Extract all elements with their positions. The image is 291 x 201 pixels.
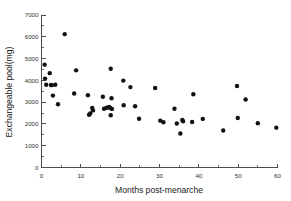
data-point — [101, 95, 105, 99]
data-point — [74, 68, 78, 72]
data-point — [221, 128, 225, 132]
x-tick-label: 20 — [117, 172, 124, 179]
data-point — [243, 97, 247, 101]
ticks-group — [42, 15, 278, 168]
data-point — [201, 117, 205, 121]
data-point — [153, 86, 157, 90]
data-point — [122, 103, 126, 107]
data-point — [43, 76, 47, 80]
data-point — [63, 32, 67, 36]
data-point — [42, 62, 46, 66]
x-axis-title: Months post-menarche — [115, 185, 203, 195]
data-point — [190, 120, 194, 124]
y-tick-label: 5000 — [25, 55, 39, 62]
data-point — [175, 121, 179, 125]
data-point — [178, 131, 182, 135]
data-point — [48, 71, 52, 75]
y-axis-title: Exchangeable pool(mg) — [4, 46, 14, 137]
data-point — [274, 125, 278, 129]
y-tick-label: 6000 — [25, 33, 39, 40]
data-point — [72, 91, 76, 95]
y-tick-label: 1000 — [25, 142, 39, 149]
data-point — [109, 96, 113, 100]
plot-canvas: 0102030405060010002000300040005000600070… — [0, 0, 291, 201]
x-tick-label: 50 — [235, 172, 242, 179]
data-point — [121, 78, 125, 82]
y-tick-label: 2000 — [25, 120, 39, 127]
data-point — [128, 85, 132, 89]
data-point — [56, 102, 60, 106]
x-tick-label: 10 — [77, 172, 84, 179]
tick-labels-group: 0102030405060010002000300040005000600070… — [25, 11, 282, 178]
axes-group — [42, 15, 278, 168]
data-point — [137, 117, 141, 121]
x-tick-label: 60 — [274, 172, 281, 179]
data-point — [51, 93, 55, 97]
data-point — [256, 121, 260, 125]
y-tick-label: 4000 — [25, 77, 39, 84]
data-point — [235, 84, 239, 88]
y-tick-label: 0 — [35, 164, 39, 171]
scatter-chart-figure: 0102030405060010002000300040005000600070… — [0, 0, 291, 201]
x-tick-label: 40 — [195, 172, 202, 179]
data-point — [109, 67, 113, 71]
x-tick-label: 30 — [156, 172, 163, 179]
data-point — [110, 107, 114, 111]
data-point — [161, 120, 165, 124]
data-points-group — [42, 32, 278, 136]
data-point — [236, 116, 240, 120]
data-point — [172, 106, 176, 110]
data-point — [181, 119, 185, 123]
y-tick-label: 3000 — [25, 98, 39, 105]
data-point — [44, 83, 48, 87]
data-point — [133, 104, 137, 108]
data-point — [53, 83, 57, 87]
y-tick-label: 7000 — [25, 11, 39, 18]
x-tick-label: 0 — [40, 172, 44, 179]
data-point — [191, 92, 195, 96]
data-point — [91, 108, 95, 112]
data-point — [109, 113, 113, 117]
data-point — [86, 93, 90, 97]
